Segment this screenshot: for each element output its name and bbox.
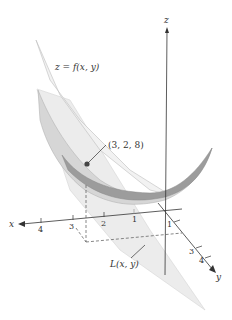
point-label: (3, 2, 8) xyxy=(108,140,144,150)
x-tick-label-2: 2 xyxy=(101,219,106,228)
surface-label: z = f(x, y) xyxy=(54,62,100,72)
z-axis xyxy=(165,30,167,275)
diagram-figure: z x 4 3 2 1 y 1 3 4 (3, 2, 8) z = xyxy=(0,0,232,320)
plane-label: L(x, y) xyxy=(109,259,139,269)
y-tick-4 xyxy=(205,256,211,258)
x-tick-label-1: 1 xyxy=(132,215,137,224)
z-axis-label: z xyxy=(163,15,169,25)
y-tick-label-1: 1 xyxy=(167,220,172,229)
y-tick-label-3: 3 xyxy=(189,247,194,256)
z-axis-arrow xyxy=(165,27,169,33)
x-tick-label-3: 3 xyxy=(69,222,74,231)
y-tick-1 xyxy=(174,220,180,222)
y-tick-3 xyxy=(196,246,202,248)
y-tick-label-4: 4 xyxy=(199,256,204,265)
x-axis-label: x xyxy=(9,219,14,229)
x-tick-label-4: 4 xyxy=(38,225,43,234)
x-axis-arrow xyxy=(18,221,25,227)
dashed-x-to-point xyxy=(76,228,86,242)
y-axis-label: y xyxy=(215,272,222,282)
